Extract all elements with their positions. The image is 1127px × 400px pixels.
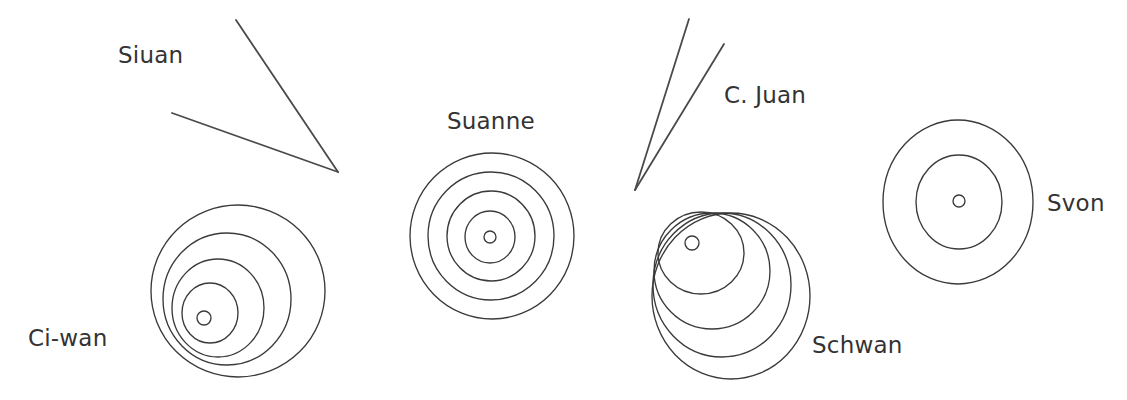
ci-wan-ring-1 [151,205,325,377]
schwan-ring-4 [658,212,744,294]
figure-canvas: Siuan Suanne C. Juan Svon Ci-wan Schwan [0,0,1127,400]
label-ci-wan: Ci-wan [28,327,107,350]
shape-group-svon [883,120,1033,284]
shape-group-schwan [652,212,810,379]
shape-group-c-juan [635,19,724,190]
svon-center-dot [953,195,965,207]
schwan-ring-3 [654,213,770,329]
ci-wan-center-dot [197,311,211,325]
c-juan-ray-1 [635,19,689,190]
label-schwan: Schwan [812,334,903,357]
siuan-ray-1 [236,20,338,172]
schwan-center-dot [685,236,699,250]
label-c-juan: C. Juan [724,84,806,107]
c-juan-ray-2 [635,44,724,190]
label-suanne: Suanne [447,110,535,133]
ci-wan-ring-4 [182,283,238,343]
shape-group-siuan [172,20,338,172]
siuan-ray-2 [172,113,338,172]
label-siuan: Siuan [118,44,183,67]
suanne-center-dot [484,231,496,243]
suanne-ring-3 [447,191,535,281]
label-svon: Svon [1047,192,1105,215]
suanne-ring-1 [410,153,574,319]
shape-group-suanne [410,153,574,319]
suanne-ring-4 [465,211,515,263]
shape-group-ci-wan [151,205,325,377]
ci-wan-ring-2 [163,233,291,365]
svon-ring-2 [916,155,1002,249]
schwan-ring-1 [652,213,810,379]
svon-ring-1 [883,120,1033,284]
